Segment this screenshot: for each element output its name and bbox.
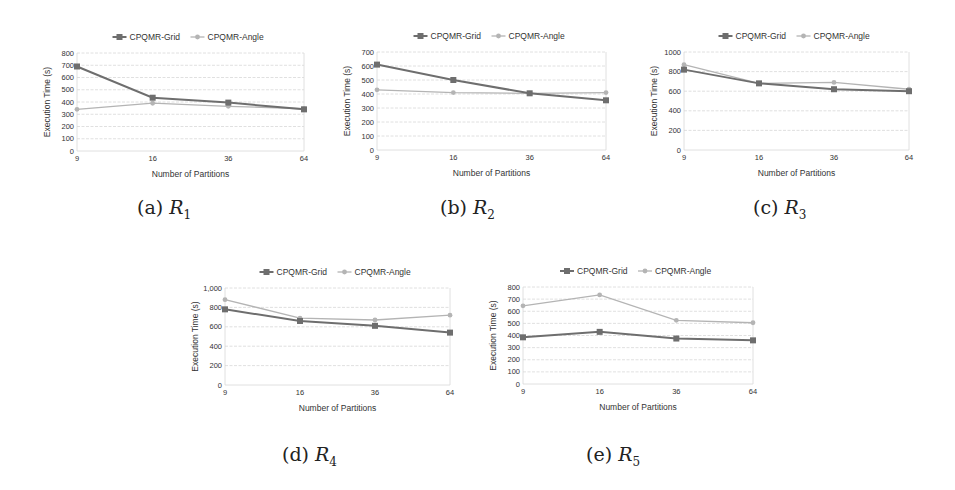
y-tick-label: 400 (507, 331, 520, 340)
series-line-grid (523, 332, 753, 340)
y-tick-label: 0 (516, 380, 520, 389)
y-tick-label: 800 (507, 283, 520, 292)
legend: CPQMR-GridCPQMR-Angle (560, 266, 711, 276)
caption-variable: R (618, 443, 632, 465)
legend-angle-marker-icon (643, 269, 648, 274)
y-tick-label: 100 (507, 367, 520, 376)
square-marker (750, 337, 756, 343)
y-tick-label: 700 (507, 295, 520, 304)
y-tick-label: 500 (507, 319, 520, 328)
x-tick-label: 16 (595, 387, 603, 396)
dot-marker (674, 318, 679, 323)
x-tick-label: 64 (749, 387, 757, 396)
square-marker (673, 336, 679, 342)
legend-grid-marker-icon (564, 268, 570, 274)
square-marker (597, 329, 603, 335)
y-tick-label: 200 (507, 355, 520, 364)
legend-label-angle: CPQMR-Angle (655, 266, 711, 276)
y-axis-label: Execution Time (s) (488, 300, 498, 371)
x-axis-label: Number of Partitions (599, 402, 676, 412)
caption-letter: (e) (586, 443, 612, 465)
y-tick-label: 600 (507, 307, 520, 316)
dot-marker (597, 292, 602, 297)
square-marker (520, 334, 526, 340)
legend-label-grid: CPQMR-Grid (577, 266, 628, 276)
y-tick-label: 300 (507, 343, 520, 352)
x-tick-label: 9 (521, 387, 525, 396)
caption-subscript: 5 (632, 455, 640, 469)
caption-e: (e) R5 (586, 443, 640, 469)
dot-marker (521, 303, 526, 308)
dot-marker (751, 320, 756, 325)
x-tick-label: 36 (672, 387, 680, 396)
